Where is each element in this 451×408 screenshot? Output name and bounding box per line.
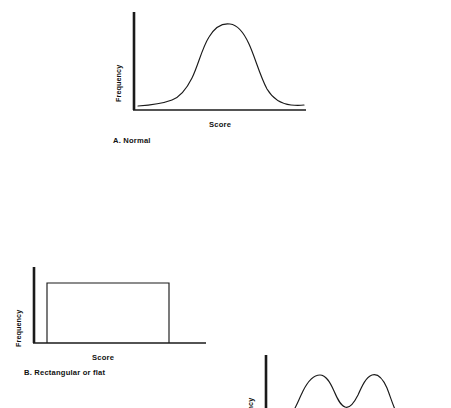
chart-panel-normal: Frequency Score A. Normal	[108, 10, 451, 118]
chart-panel-rectangular: Frequency Score B. Rectangular or flat	[8, 265, 451, 353]
chart-plot-normal	[108, 10, 308, 118]
y-axis-label-normal: Frequency	[114, 65, 123, 102]
y-axis-label-rectangular: Frequency	[14, 310, 23, 347]
chart-plot-rectangular	[8, 265, 208, 353]
caption-normal: A. Normal	[113, 136, 151, 145]
curve-bimodal	[269, 375, 437, 408]
curve-normal	[138, 24, 304, 106]
chart-plot-bimodal	[240, 353, 440, 408]
curve-rectangular	[47, 283, 169, 343]
y-axis-label-bimodal: Frequency	[246, 398, 255, 408]
x-axis-label-rectangular: Score	[92, 353, 114, 362]
caption-rectangular: B. Rectangular or flat	[24, 368, 105, 377]
x-axis-label-normal: Score	[209, 120, 231, 129]
chart-panel-bimodal: Frequency Score C. Bimodal	[240, 353, 451, 408]
